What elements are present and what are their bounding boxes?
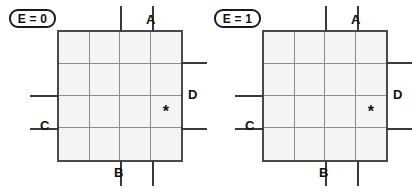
variable-marker-d-line-1 <box>386 62 412 64</box>
kmap-cell[interactable] <box>59 128 90 160</box>
asterisk-marker: * <box>163 104 169 120</box>
variable-marker-b-line-2 <box>357 160 359 186</box>
kmap-cell[interactable] <box>295 128 326 160</box>
kmap-cell[interactable] <box>90 32 121 64</box>
kmap-cells: * <box>59 32 181 160</box>
kmap-cell[interactable] <box>295 32 326 64</box>
variable-marker-a-line-1 <box>325 6 327 32</box>
variable-marker-d-line-2 <box>386 128 412 130</box>
variable-marker-d-line-1 <box>181 62 207 64</box>
kmap-panel-e1: E = 1 * <box>205 0 410 192</box>
variable-label-d: D <box>393 88 402 101</box>
kmap-cell[interactable] <box>151 64 182 96</box>
kmap-cell[interactable] <box>356 128 387 160</box>
kmap-cell-marked[interactable]: * <box>356 96 387 128</box>
kmap-cell[interactable] <box>151 32 182 64</box>
variable-marker-a-line-1 <box>120 6 122 32</box>
kmap-grid: * <box>57 30 183 162</box>
variable-marker-d-line-2 <box>181 128 207 130</box>
variable-marker-b-line-2 <box>152 160 154 186</box>
kmap-cell[interactable] <box>325 128 356 160</box>
kmap-cell[interactable] <box>264 96 295 128</box>
kmap-cell-marked[interactable]: * <box>151 96 182 128</box>
variable-label-b: B <box>114 166 123 179</box>
kmap-cell[interactable] <box>264 64 295 96</box>
kmap-panel-e0: E = 0 * <box>0 0 205 192</box>
kmap-cell[interactable] <box>120 96 151 128</box>
kmap-cell[interactable] <box>325 64 356 96</box>
kmap-cell[interactable] <box>264 32 295 64</box>
kmap-cell[interactable] <box>264 128 295 160</box>
kmap-cell[interactable] <box>90 96 121 128</box>
variable-label-a: A <box>146 13 155 26</box>
variable-marker-c-line-1 <box>235 95 264 97</box>
kmap-cell[interactable] <box>295 64 326 96</box>
e-value-badge: E = 1 <box>214 9 261 28</box>
kmap-grid: * <box>262 30 388 162</box>
variable-label-c: C <box>245 119 254 132</box>
asterisk-marker: * <box>368 104 374 120</box>
kmap-cell[interactable] <box>120 64 151 96</box>
kmap-cell[interactable] <box>356 32 387 64</box>
kmap-cells: * <box>264 32 386 160</box>
variable-label-c: C <box>40 119 49 132</box>
e-value-badge: E = 0 <box>9 9 56 28</box>
kmap-cell[interactable] <box>325 32 356 64</box>
kmap-cell[interactable] <box>59 96 90 128</box>
variable-marker-c-line-1 <box>30 95 59 97</box>
variable-label-a: A <box>351 13 360 26</box>
kmap-cell[interactable] <box>59 32 90 64</box>
kmap-cell[interactable] <box>295 96 326 128</box>
kmap-cell[interactable] <box>90 64 121 96</box>
kmap-cell[interactable] <box>151 128 182 160</box>
variable-label-d: D <box>188 88 197 101</box>
kmap-cell[interactable] <box>59 64 90 96</box>
kmap-cell[interactable] <box>325 96 356 128</box>
kmap-cell[interactable] <box>90 128 121 160</box>
kmap-cell[interactable] <box>120 128 151 160</box>
kmap-cell[interactable] <box>356 64 387 96</box>
variable-label-b: B <box>319 166 328 179</box>
kmap-cell[interactable] <box>120 32 151 64</box>
